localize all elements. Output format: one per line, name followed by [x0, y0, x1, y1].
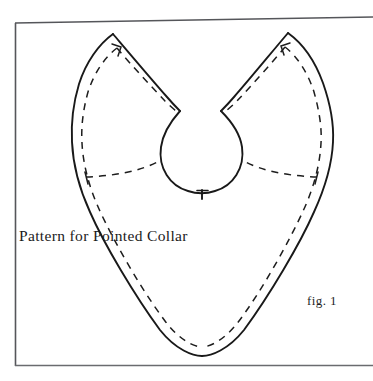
pattern-balance-marks	[85, 43, 318, 184]
collar-pattern-illustration	[0, 0, 373, 381]
figure-caption: Pattern for Pointed Collar	[19, 227, 188, 245]
figure-page: Pattern for Pointed Collar fig. 1	[0, 0, 373, 381]
figure-number-label: fig. 1	[307, 293, 337, 309]
collar-cutting-line	[72, 33, 333, 356]
page-border	[15, 17, 373, 366]
